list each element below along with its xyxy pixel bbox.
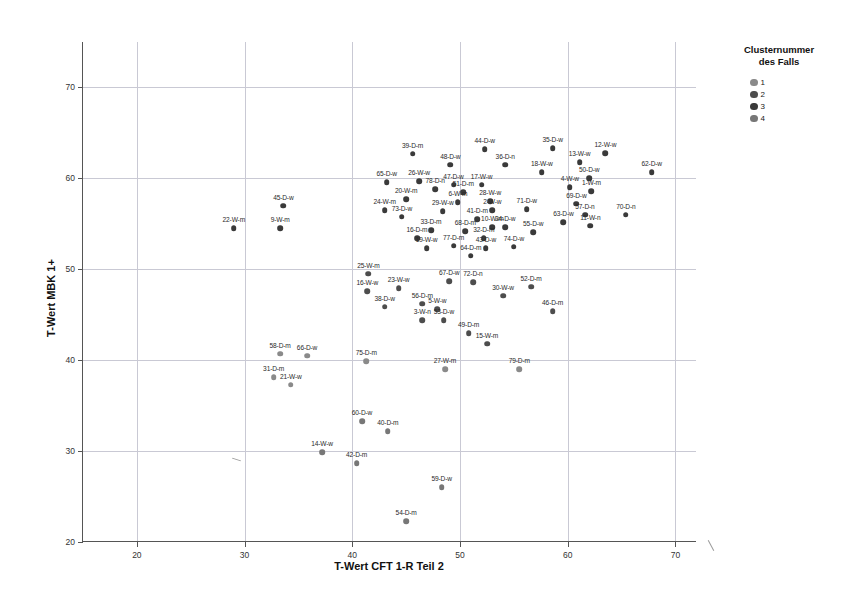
x-axis-tick-label: 40: [348, 550, 357, 560]
data-point[interactable]: [440, 208, 446, 214]
y-axis-tick: [78, 178, 83, 179]
data-point[interactable]: [441, 317, 447, 323]
data-point[interactable]: [359, 418, 365, 424]
data-point[interactable]: [539, 169, 545, 175]
data-point-label: 65-D-w: [377, 170, 397, 177]
data-point-label: 29-W-w: [432, 199, 454, 206]
data-point[interactable]: [382, 304, 388, 310]
gridline-horizontal: [83, 87, 696, 88]
data-point-label: 58-D-m: [270, 341, 291, 348]
data-point-label: 70-D-n: [616, 202, 635, 209]
y-axis-tick: [78, 451, 83, 452]
stray-pen-mark-icon: [708, 540, 715, 551]
data-point[interactable]: [451, 243, 457, 249]
data-point[interactable]: [577, 159, 583, 165]
data-point[interactable]: [455, 199, 461, 205]
data-point[interactable]: [385, 428, 391, 434]
data-point-label: 16-W-w: [357, 279, 379, 286]
x-axis-tick-label: 20: [132, 550, 141, 560]
data-point[interactable]: [479, 182, 485, 188]
data-point[interactable]: [399, 214, 405, 220]
data-point[interactable]: [288, 382, 294, 388]
data-point[interactable]: [448, 162, 454, 168]
data-point-label: 68-D-m: [455, 219, 476, 226]
data-point[interactable]: [396, 286, 402, 292]
data-point[interactable]: [588, 223, 594, 229]
x-axis-tick: [137, 542, 138, 547]
gridline-horizontal: [83, 360, 696, 361]
data-point-label: 22-W-m: [223, 216, 245, 223]
data-point-label: 66-D-w: [297, 343, 317, 350]
data-point[interactable]: [420, 301, 426, 307]
data-point-label: 73-D-w: [392, 204, 412, 211]
data-point[interactable]: [428, 227, 434, 233]
scan-bleed-artifact: [0, 581, 854, 603]
data-point[interactable]: [468, 253, 474, 259]
data-point[interactable]: [403, 196, 409, 202]
data-point-label: 45-D-w: [273, 193, 293, 200]
data-point[interactable]: [528, 284, 534, 290]
data-point[interactable]: [502, 225, 508, 231]
data-point[interactable]: [277, 351, 283, 357]
data-point-label: 15-W-m: [476, 331, 498, 338]
data-point-label: 18-W-w: [531, 160, 553, 167]
data-point[interactable]: [567, 185, 573, 191]
data-point[interactable]: [470, 279, 476, 285]
gridline-vertical: [568, 42, 569, 541]
data-point[interactable]: [439, 485, 445, 491]
legend-item[interactable]: 4: [750, 113, 848, 124]
data-point[interactable]: [550, 308, 556, 314]
data-point[interactable]: [281, 203, 287, 209]
legend-item[interactable]: 1: [750, 77, 848, 88]
legend-title: Clusternummer des Falls: [716, 44, 842, 68]
data-point[interactable]: [511, 244, 517, 250]
data-point[interactable]: [424, 246, 430, 252]
data-point[interactable]: [484, 341, 490, 347]
data-point[interactable]: [589, 188, 595, 194]
legend-item[interactable]: 2: [750, 89, 848, 100]
plot-area: 20304050607020304050607022-W-m9-W-m45-D-…: [82, 42, 696, 542]
x-axis-tick-label: 70: [671, 550, 680, 560]
data-point[interactable]: [502, 162, 508, 168]
data-point[interactable]: [482, 146, 488, 152]
data-point[interactable]: [416, 178, 422, 184]
data-point[interactable]: [490, 207, 496, 213]
x-axis-tick: [352, 542, 353, 547]
data-point[interactable]: [649, 169, 655, 175]
data-point[interactable]: [364, 358, 370, 364]
data-point[interactable]: [500, 293, 506, 299]
data-point[interactable]: [277, 226, 283, 232]
data-point[interactable]: [530, 229, 536, 235]
data-point[interactable]: [603, 150, 609, 156]
legend-item[interactable]: 3: [750, 101, 848, 112]
x-axis-tick-label: 60: [563, 550, 572, 560]
data-point[interactable]: [442, 366, 448, 372]
data-point[interactable]: [483, 246, 489, 252]
data-point[interactable]: [466, 330, 472, 336]
data-point[interactable]: [354, 460, 360, 466]
data-point-label: 5-W-w: [428, 297, 446, 304]
data-point[interactable]: [304, 353, 310, 359]
data-point[interactable]: [403, 518, 409, 524]
data-point[interactable]: [432, 186, 438, 192]
data-point[interactable]: [382, 207, 388, 213]
data-point[interactable]: [365, 288, 371, 294]
data-point[interactable]: [231, 226, 237, 232]
data-point-label: 38-D-w: [374, 294, 394, 301]
data-point[interactable]: [550, 146, 556, 152]
data-point[interactable]: [384, 179, 390, 185]
data-point[interactable]: [524, 206, 530, 212]
legend-item-label: 3: [761, 102, 765, 111]
data-point[interactable]: [420, 317, 426, 323]
data-point[interactable]: [271, 375, 277, 381]
data-point[interactable]: [446, 278, 452, 284]
data-point[interactable]: [410, 151, 416, 157]
data-point[interactable]: [319, 449, 325, 455]
data-point[interactable]: [561, 219, 567, 225]
y-axis-title: T-Wert MBK 1+: [45, 203, 57, 393]
data-point[interactable]: [623, 212, 629, 218]
legend-swatch-icon: [750, 115, 758, 123]
data-point-label: 50-D-w: [579, 166, 599, 173]
data-point[interactable]: [366, 271, 372, 277]
data-point[interactable]: [516, 366, 522, 372]
